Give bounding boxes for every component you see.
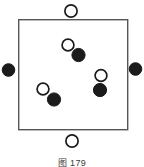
- inner-right-filled-circle: [93, 83, 106, 96]
- diagram-canvas: [0, 0, 144, 167]
- outer-left-filled-circle: [2, 64, 15, 77]
- inner-lower-left-filled-circle: [47, 93, 60, 106]
- inner-upper-open-circle: [62, 39, 74, 51]
- inner-right-open-circle: [95, 70, 107, 82]
- figure-caption: 图 179: [0, 158, 144, 167]
- outer-top-open-circle: [65, 5, 77, 17]
- figure-container: 图 179: [0, 0, 144, 167]
- outer-right-filled-circle: [129, 63, 142, 76]
- outer-bottom-open-circle: [66, 135, 78, 147]
- square-boundary: [19, 20, 128, 130]
- inner-upper-filled-circle: [72, 48, 85, 61]
- inner-lower-left-open-circle: [37, 83, 49, 95]
